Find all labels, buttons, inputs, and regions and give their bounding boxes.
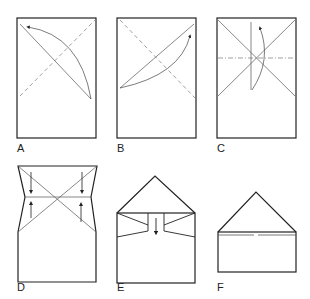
panel-label-d: D [17,281,25,293]
folding-diagram [0,0,310,299]
panel-a [17,18,96,138]
panel-label-e: E [117,281,124,293]
panel-b [117,18,196,138]
panel-c [217,18,296,138]
panel-e [117,176,195,283]
panel-f [218,192,296,272]
panel-d [18,166,97,282]
panel-label-f: F [217,281,224,293]
panel-label-c: C [217,142,225,154]
panel-label-b: B [117,142,124,154]
panel-label-a: A [17,142,24,154]
